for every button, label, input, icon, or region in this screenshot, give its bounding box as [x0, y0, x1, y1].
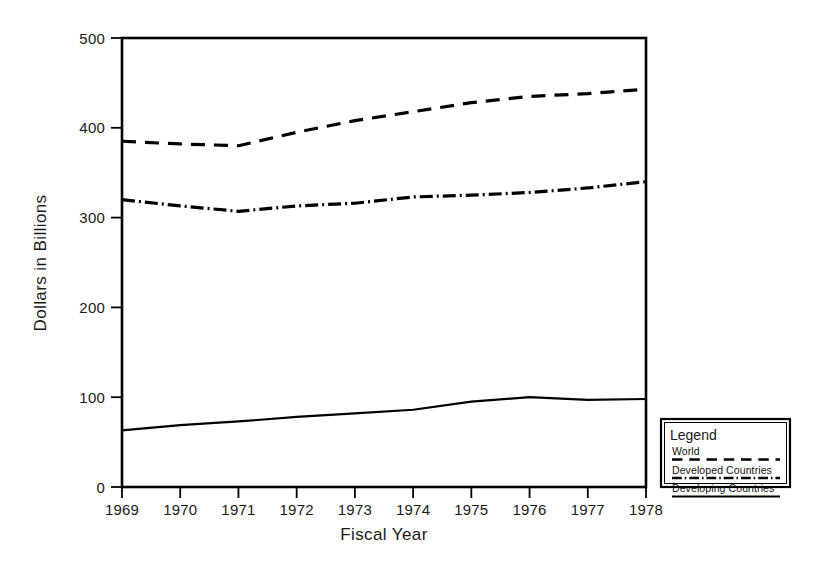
legend-item-label: Developing Countries — [672, 482, 774, 494]
y-axis-title: Dollars in Billions — [31, 194, 50, 331]
line-chart: 0100200300400500 19691970197119721973197… — [0, 0, 826, 565]
legend[interactable]: Legend WorldDeveloped CountriesDevelopin… — [661, 419, 790, 497]
legend-title: Legend — [670, 427, 717, 443]
x-tick-label: 1972 — [280, 501, 314, 518]
x-tick-label: 1971 — [221, 501, 255, 518]
legend-item-label: Developed Countries — [672, 464, 772, 476]
chart-container: 0100200300400500 19691970197119721973197… — [0, 0, 826, 565]
x-tick-label: 1977 — [571, 501, 605, 518]
legend-item-label: World — [672, 445, 700, 457]
x-tick-label: 1969 — [105, 501, 139, 518]
y-tick-label: 100 — [79, 389, 105, 406]
y-tick-label: 300 — [79, 209, 105, 226]
x-axis-title: Fiscal Year — [340, 525, 428, 544]
y-tick-label: 400 — [79, 119, 105, 136]
x-tick-label: 1978 — [629, 501, 663, 518]
y-tick-label: 500 — [79, 30, 105, 47]
x-tick-label: 1973 — [338, 501, 372, 518]
x-tick-label: 1975 — [454, 501, 488, 518]
y-tick-label: 0 — [96, 479, 105, 496]
x-tick-label: 1976 — [512, 501, 546, 518]
x-tick-label: 1970 — [163, 501, 197, 518]
x-tick-label: 1974 — [396, 501, 430, 518]
y-tick-label: 200 — [79, 299, 105, 316]
